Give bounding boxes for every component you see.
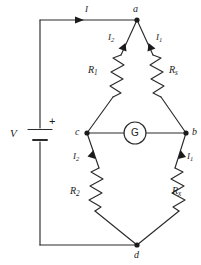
node-label-d: d bbox=[134, 250, 139, 260]
node-label-a: a bbox=[133, 4, 138, 14]
current-label-I1-top-sub: 1 bbox=[159, 36, 162, 43]
resistor-r1-zigzag bbox=[110, 55, 124, 97]
resistor-label-rs: Rs bbox=[169, 65, 178, 77]
wire-rx-to-d bbox=[137, 211, 179, 245]
node-label-c: c bbox=[75, 127, 79, 137]
current-label-I: I bbox=[85, 5, 88, 15]
node-dot-b bbox=[183, 130, 188, 135]
current-label-I1-bottom-sub: 1 bbox=[190, 155, 193, 162]
arrowhead-current-I bbox=[75, 16, 84, 23]
wire-r1-to-c bbox=[87, 97, 113, 133]
current-label-I2-bottom-sub: 2 bbox=[76, 155, 79, 162]
current-label-I2-top: I2 bbox=[108, 33, 114, 43]
wire-c-to-r2 bbox=[87, 133, 99, 168]
battery-polarity-plus: + bbox=[49, 116, 55, 127]
wheatstone-bridge-diagram: a b c d V + G R1 Rs R2 Rx I I2 I1 I2 I1 bbox=[0, 0, 201, 265]
circuit-schematic-canvas bbox=[0, 0, 201, 265]
node-label-b: b bbox=[192, 127, 197, 137]
resistor-label-rs-sub: s bbox=[175, 69, 178, 77]
node-dot-d bbox=[134, 242, 139, 247]
current-label-I2-bottom: I2 bbox=[73, 152, 79, 162]
resistor-label-r1: R1 bbox=[88, 65, 98, 77]
voltage-source-label: V bbox=[10, 128, 17, 139]
arrowhead-current-I2-bottom bbox=[88, 150, 96, 159]
resistor-r2-zigzag bbox=[89, 168, 103, 211]
resistor-rs-zigzag bbox=[150, 55, 164, 97]
resistor-label-r1-sub: 1 bbox=[94, 69, 98, 77]
node-dot-c bbox=[84, 130, 89, 135]
current-label-I2-top-sub: 2 bbox=[111, 36, 114, 43]
resistor-label-r2-sub: 2 bbox=[76, 190, 80, 198]
current-label-I1-bottom: I1 bbox=[187, 152, 193, 162]
resistor-label-r2: R2 bbox=[70, 186, 80, 198]
current-label-I-base: I bbox=[85, 4, 88, 14]
node-dot-a bbox=[134, 17, 139, 22]
wire-r2-to-d bbox=[95, 211, 137, 245]
arrowhead-current-I1-top bbox=[148, 43, 156, 52]
arrowhead-current-I2-top bbox=[119, 43, 127, 52]
resistor-label-rx-sub: x bbox=[178, 190, 181, 198]
resistor-label-rx: Rx bbox=[172, 186, 181, 198]
wire-rs-to-b bbox=[161, 97, 186, 133]
current-label-I1-top: I1 bbox=[156, 33, 162, 43]
galvanometer-label: G bbox=[131, 128, 139, 138]
